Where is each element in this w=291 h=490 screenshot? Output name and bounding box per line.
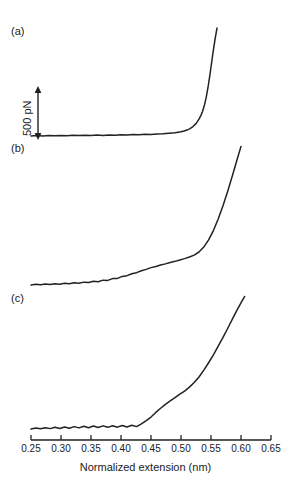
curve-a-path xyxy=(31,28,217,136)
x-axis-tick-label: 0.25 xyxy=(14,444,48,454)
curve-a xyxy=(31,28,217,136)
panel-label-a: (a) xyxy=(11,26,24,37)
curve-c-path xyxy=(31,297,245,429)
panel-label-b: (b) xyxy=(11,143,24,154)
figure-panel-container: (a) (b) (c) 500 pN 0.250.300.350.400.450… xyxy=(0,0,291,490)
x-axis-tick-label: 0.30 xyxy=(44,444,78,454)
panel-label-c: (c) xyxy=(11,293,24,304)
scale-bar xyxy=(35,86,42,140)
x-axis-title: Normalized extension (nm) xyxy=(0,462,291,473)
curve-b-path xyxy=(31,146,241,285)
x-axis-tick-label: 0.60 xyxy=(224,444,258,454)
x-axis-tick-label: 0.40 xyxy=(104,444,138,454)
x-axis-tick-label: 0.35 xyxy=(74,444,108,454)
scale-bar-label: 500 pN xyxy=(22,101,33,136)
x-axis-tick-label: 0.55 xyxy=(194,444,228,454)
curve-b xyxy=(31,146,241,285)
x-axis xyxy=(31,435,271,440)
scale-bar-arrow-up-icon xyxy=(35,86,42,93)
x-axis-tick-label: 0.45 xyxy=(134,444,168,454)
x-axis-ticks xyxy=(31,435,271,440)
x-axis-tick-label: 0.50 xyxy=(164,444,198,454)
x-axis-tick-label: 0.65 xyxy=(254,444,288,454)
force-extension-plot xyxy=(0,0,291,490)
curve-c xyxy=(31,297,245,429)
